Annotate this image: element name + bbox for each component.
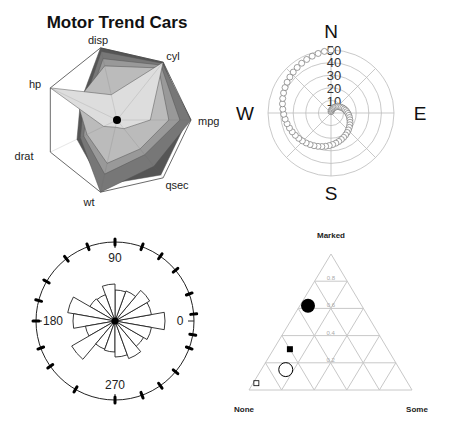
axis-label-drat: drat xyxy=(15,150,34,162)
ternary-tick-labels: 0.20.40.60.8 xyxy=(326,275,335,363)
rug-mark xyxy=(159,254,162,259)
axis-label-cyl: cyl xyxy=(166,50,179,62)
rug-mark xyxy=(186,347,192,349)
rug-mark xyxy=(191,314,197,315)
rug-mark xyxy=(44,280,49,283)
ring-label-30: 30 xyxy=(327,68,341,83)
rug-mark xyxy=(36,300,42,302)
axis-label-wt: wt xyxy=(83,196,95,208)
ternary-point-filled-square xyxy=(287,346,293,352)
spiral-point xyxy=(315,50,321,56)
rug-mark xyxy=(87,244,89,250)
radar-center-dot xyxy=(113,116,121,124)
rug-mark xyxy=(74,387,77,392)
axis-label-mpg: mpg xyxy=(198,115,219,127)
spiral-point xyxy=(280,95,286,101)
compass-west: W xyxy=(236,103,254,124)
compass-south: S xyxy=(325,183,338,204)
ternary-tick-label: 0.2 xyxy=(326,357,335,363)
rose-center-dot xyxy=(112,318,119,325)
spiral-point xyxy=(299,60,305,66)
ternary-gridline xyxy=(379,363,395,390)
rug-mark xyxy=(190,334,196,335)
corner-label-marked: Marked xyxy=(317,231,345,240)
spiral-point xyxy=(304,56,310,62)
radar-chart: Motor Trend Cars disp cyl mpg qsec wt dr… xyxy=(15,13,220,208)
spiral-point xyxy=(281,90,287,96)
rug-mark xyxy=(48,365,53,368)
compass-east: E xyxy=(414,103,427,124)
spiral-point xyxy=(328,47,334,53)
rug-mark xyxy=(141,392,143,398)
rose-label-270: 270 xyxy=(105,378,125,392)
axis-label-hp: hp xyxy=(29,78,41,90)
rose-label-180: 180 xyxy=(43,314,63,328)
ternary-tick-label: 0.6 xyxy=(327,302,336,308)
compass-north: N xyxy=(324,21,338,42)
ternary-gridline xyxy=(314,308,363,390)
rose-label-90: 90 xyxy=(108,251,122,265)
rose-label-0: 0 xyxy=(177,314,184,328)
ternary-tick-label: 0.4 xyxy=(327,330,336,336)
rug-mark xyxy=(159,383,162,388)
ring-label-20: 20 xyxy=(327,81,341,96)
polar-ring-labels: 10 20 30 40 50 xyxy=(327,43,341,109)
ternary-plot: 0.20.40.60.8 Marked None Some xyxy=(234,231,428,414)
polar-spoke xyxy=(331,113,376,158)
axis-label-qsec: qsec xyxy=(165,179,189,191)
corner-label-some: Some xyxy=(406,405,428,414)
ternary-point-filled-circle xyxy=(301,299,315,313)
figure-canvas: Motor Trend Cars disp cyl mpg qsec wt dr… xyxy=(0,0,449,436)
rose-diagram: 90 0 180 270 xyxy=(33,239,197,403)
axis-label-disp: disp xyxy=(88,34,108,46)
rug-mark xyxy=(38,347,44,349)
ternary-tick-label: 0.8 xyxy=(327,275,336,281)
corner-label-none: None xyxy=(234,405,255,414)
ternary-points xyxy=(254,299,315,386)
ternary-point-open-circle xyxy=(279,363,293,377)
spiral-point xyxy=(309,53,315,59)
ternary-gridline xyxy=(298,308,347,390)
polar-spiral-chart: 10 20 30 40 50 N E S W xyxy=(236,21,426,204)
rug-mark xyxy=(141,244,143,250)
radar-title: Motor Trend Cars xyxy=(47,13,188,32)
spiral-point xyxy=(321,48,327,54)
rug-mark xyxy=(186,293,192,295)
